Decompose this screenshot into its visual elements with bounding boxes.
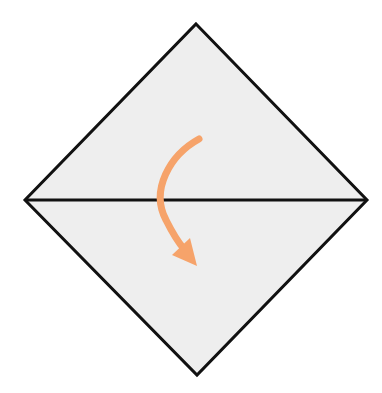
fold-diagram bbox=[0, 0, 382, 393]
